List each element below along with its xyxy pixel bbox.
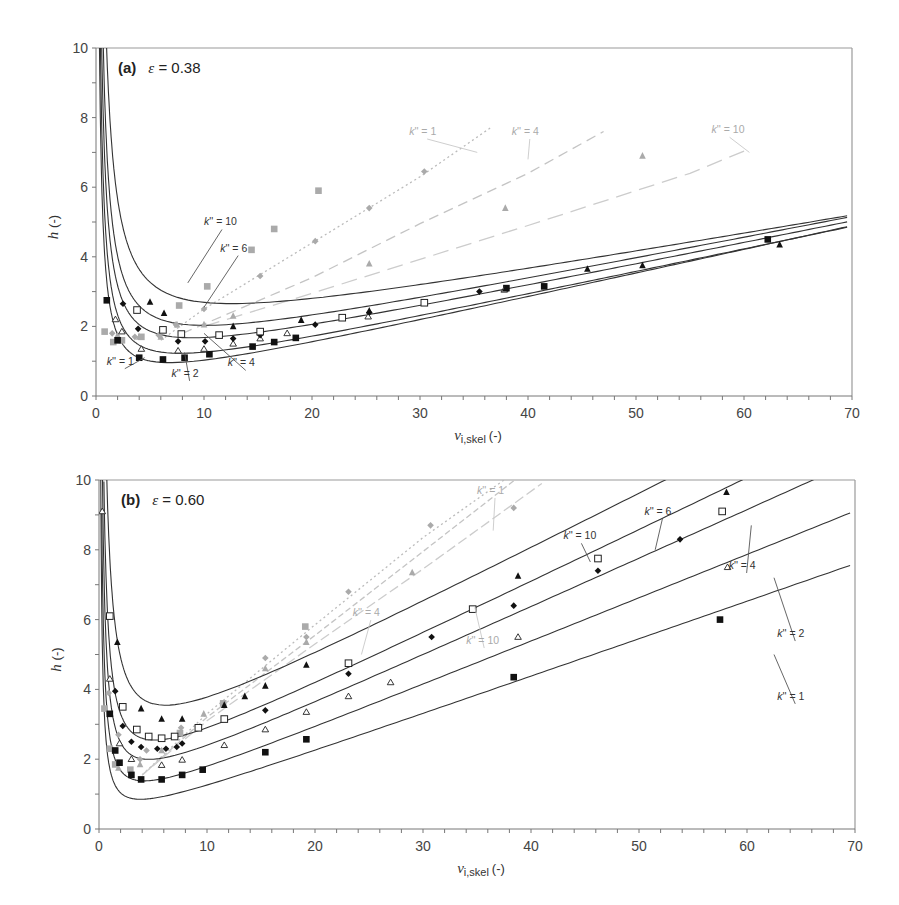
data-point [303,661,310,668]
data-point [138,776,145,783]
data-point [366,260,373,267]
data-point [161,309,168,316]
data-point [541,283,548,290]
fitted-curve [103,35,847,326]
data-point [303,638,310,645]
x-tick-label: 10 [196,405,212,421]
data-point [257,328,264,335]
data-point [387,679,394,685]
data-point [202,338,209,345]
y-tick-label: 6 [80,179,88,195]
data-point [114,337,121,344]
data-point [101,328,108,335]
data-point [104,297,111,304]
data-point [201,346,208,352]
label-leader-line [427,139,477,152]
data-point [262,655,269,662]
label-leader-line [188,229,222,282]
y-axis-title: h (-) [48,647,64,671]
data-point [158,735,165,742]
data-point [293,335,300,342]
data-point [421,168,428,175]
x-tick-label: 10 [199,838,215,854]
data-point [421,299,428,306]
data-point [312,321,319,328]
fitted-curve [106,447,731,706]
data-point [249,343,256,350]
data-point [160,327,167,334]
curve-label: k'' = 4 [228,356,255,368]
data-point [248,247,255,254]
label-leader-line [493,498,495,531]
data-point [158,715,165,722]
label-leader-line [730,137,750,152]
data-point [175,338,182,345]
data-point [160,356,167,363]
data-point [204,283,211,290]
label-leader-line [581,543,590,562]
data-point [206,351,213,358]
fitted-curve [106,20,847,303]
y-tick-label: 4 [83,681,91,697]
curve-label: k'' = 10 [563,529,596,541]
curve-label: k'' = 2 [777,627,804,639]
data-point [303,736,310,743]
x-axis-title: vi,skel(-) [457,860,505,878]
y-axis-title: h (-) [45,215,61,239]
curve-label: k'' = 6 [220,242,247,254]
data-point [138,705,145,712]
panel-label: (a)ε = 0.38 [118,59,201,76]
label-leader-line [361,620,370,654]
dashed-trend-line [204,149,749,327]
y-tick-label: 10 [75,472,91,488]
curve-label: k'' = 2 [172,367,199,379]
data-point [345,693,352,699]
label-leader-line [204,256,238,308]
panel-label: (b)ε = 0.60 [121,491,204,508]
data-point [176,302,183,309]
y-tick-label: 8 [80,110,88,126]
data-point [201,321,208,328]
data-point [262,707,269,714]
data-point [158,762,165,768]
data-point [114,638,121,645]
data-point [134,307,141,314]
data-point [515,572,522,579]
data-point [143,747,150,754]
curve-label: k'' = 10 [712,123,745,135]
label-leader-line [655,519,662,550]
data-point [145,733,152,740]
data-point [107,711,114,718]
x-tick-label: 50 [631,838,647,854]
data-point [179,772,186,779]
x-tick-label: 50 [628,405,644,421]
y-tick-label: 0 [80,388,88,404]
y-tick-label: 2 [80,318,88,334]
data-point [284,330,291,336]
data-point [510,602,517,609]
data-point [179,757,186,763]
data-point [116,759,123,766]
y-tick-label: 8 [83,542,91,558]
x-tick-label: 70 [847,838,863,854]
data-point [764,236,771,243]
curve-label: k'' = 4 [512,125,539,137]
chart-panel-b: 0102030405060700246810vi,skel(-)h (-)(b)… [48,446,863,878]
fitted-curve [101,28,847,338]
data-point [262,682,269,689]
data-point [109,330,116,337]
data-point [639,152,646,159]
x-tick-label: 40 [523,838,539,854]
x-axis-title: vi,skel(-) [454,427,502,445]
data-point [119,704,126,711]
x-tick-label: 40 [520,405,536,421]
data-point [230,335,237,342]
data-point [195,724,202,731]
data-point [677,536,684,543]
data-point [595,567,602,574]
data-point [138,744,145,751]
curve-label: k'' = 10 [466,634,499,646]
data-point [510,674,517,681]
curve-label: k'' = 6 [644,505,671,517]
x-tick-label: 60 [739,838,755,854]
